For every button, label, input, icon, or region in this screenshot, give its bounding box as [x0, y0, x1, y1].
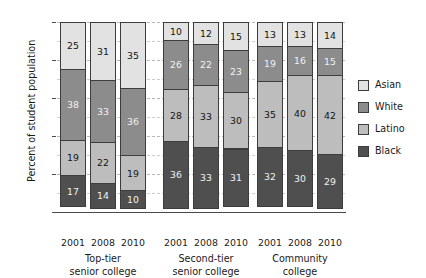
bar-segment-white: 22 [193, 44, 219, 86]
bar-segment-latino: 19 [120, 155, 146, 191]
bar-segment-black: 14 [90, 183, 116, 210]
bar-segment-white: 15 [317, 48, 343, 77]
bar-segment-value: 23 [230, 67, 242, 76]
bar-segment-value: 19 [67, 153, 79, 162]
bar-segment-black: 10 [120, 190, 146, 209]
y-tick-mark [52, 212, 56, 213]
bar-segment-value: 22 [200, 60, 212, 69]
y-tick-mark [52, 136, 56, 137]
bar-column: 35361910 [120, 22, 146, 212]
bar-segment-black: 32 [257, 147, 283, 208]
bar-segment-white: 19 [257, 46, 283, 82]
bar-segment-value: 35 [264, 110, 276, 119]
bar-segment-value: 30 [230, 116, 242, 125]
bar-segment-latino: 40 [287, 75, 313, 151]
bar-segment-white: 38 [60, 69, 86, 141]
legend-swatch-black [358, 146, 369, 157]
legend-item-black[interactable]: Black [358, 140, 426, 162]
bar-segment-value: 13 [294, 30, 306, 39]
group-label-line1: Community [235, 253, 365, 266]
legend-item-latino[interactable]: Latino [358, 118, 426, 140]
x-axis-group-label: Communitycollege [235, 253, 365, 278]
plot-area: 1008060402002538191720013133221420083536… [57, 22, 345, 212]
bar-segment-value: 29 [324, 177, 336, 186]
bar-segment-value: 28 [170, 111, 182, 120]
y-axis-title: Percent of student population [27, 16, 37, 206]
legend-label: Black [375, 146, 401, 156]
bar-segment-value: 19 [127, 169, 139, 178]
bar-segment-latino: 42 [317, 75, 343, 155]
legend-swatch-white [358, 102, 369, 113]
legend-item-white[interactable]: White [358, 96, 426, 118]
bar-segment-white: 23 [223, 50, 249, 94]
bar-segment-value: 12 [200, 29, 212, 38]
bar-segment-value: 14 [97, 191, 109, 200]
y-tick-mark [52, 98, 56, 99]
bar-column: 31332214 [90, 22, 116, 212]
bar-segment-value: 35 [127, 51, 139, 60]
bar-segment-value: 32 [264, 172, 276, 181]
bar-segment-latino: 28 [163, 89, 189, 142]
bar-segment-value: 26 [170, 60, 182, 69]
bar-segment-asian: 10 [163, 22, 189, 41]
bar-segment-value: 38 [67, 100, 79, 109]
legend-label: White [375, 102, 403, 112]
x-tick-label-year: 2010 [310, 238, 350, 247]
bar-segment-value: 25 [67, 41, 79, 50]
bar-segment-black: 33 [193, 147, 219, 210]
y-tick-mark [52, 174, 56, 175]
legend-label: Asian [375, 80, 401, 90]
bar-column: 14154229 [317, 22, 343, 212]
bar-segment-value: 16 [294, 56, 306, 65]
bar-column: 15233031 [223, 22, 249, 212]
bar-segment-latino: 33 [193, 85, 219, 148]
bar-segment-black: 17 [60, 175, 86, 207]
bar-segment-value: 33 [200, 112, 212, 121]
bar-segment-value: 14 [324, 31, 336, 40]
legend-swatch-latino [358, 124, 369, 135]
stacked-bar-chart: Percent of student population 1008060402… [0, 0, 426, 278]
bar-segment-white: 26 [163, 40, 189, 89]
x-axis-line [52, 212, 346, 213]
legend-item-asian[interactable]: Asian [358, 74, 426, 96]
bar-column: 10262836 [163, 22, 189, 212]
y-tick-mark [52, 22, 56, 23]
bar-segment-value: 19 [264, 59, 276, 68]
bar-segment-latino: 19 [60, 140, 86, 176]
bar-segment-value: 22 [97, 158, 109, 167]
bar-segment-value: 42 [324, 111, 336, 120]
bar-segment-value: 36 [170, 170, 182, 179]
chart-legend: AsianWhiteLatinoBlack [358, 74, 426, 162]
bar-segment-asian: 13 [257, 22, 283, 47]
bar-column: 12223333 [193, 22, 219, 212]
bar-segment-black: 31 [223, 149, 249, 208]
bar-segment-asian: 14 [317, 22, 343, 49]
bar-segment-value: 33 [97, 107, 109, 116]
bar-segment-black: 30 [287, 150, 313, 207]
bar-segment-value: 15 [230, 32, 242, 41]
bar-segment-latino: 22 [90, 142, 116, 184]
legend-swatch-asian [358, 80, 369, 91]
bar-segment-value: 30 [294, 174, 306, 183]
bar-segment-value: 31 [97, 47, 109, 56]
y-tick-mark [52, 60, 56, 61]
bar-segment-black: 29 [317, 154, 343, 209]
bar-segment-value: 15 [324, 57, 336, 66]
bar-segment-asian: 25 [60, 22, 86, 70]
bar-column: 13164030 [287, 22, 313, 212]
x-tick-label-year: 2010 [113, 238, 153, 247]
bar-segment-value: 10 [170, 27, 182, 36]
bar-segment-value: 17 [67, 187, 79, 196]
bar-segment-asian: 31 [90, 22, 116, 81]
bar-segment-latino: 30 [223, 92, 249, 149]
bar-segment-asian: 13 [287, 22, 313, 47]
bar-column: 25381917 [60, 22, 86, 212]
bar-segment-value: 10 [127, 195, 139, 204]
bar-segment-asian: 12 [193, 22, 219, 45]
bar-segment-asian: 15 [223, 22, 249, 51]
bar-segment-value: 13 [264, 30, 276, 39]
bar-segment-latino: 35 [257, 81, 283, 148]
bar-segment-white: 36 [120, 88, 146, 156]
legend-label: Latino [375, 124, 405, 134]
bar-column: 13193532 [257, 22, 283, 212]
